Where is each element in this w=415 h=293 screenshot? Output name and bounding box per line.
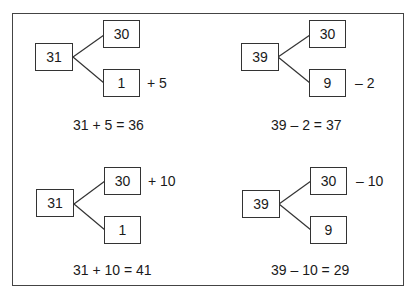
- ones-part: 1: [118, 75, 126, 91]
- ones-part-box: 1: [104, 216, 141, 244]
- whole-number: 31: [47, 195, 63, 211]
- ones-part-box: 1: [103, 69, 140, 97]
- operation-label: – 10: [356, 173, 383, 189]
- ones-part-box: 9: [310, 216, 347, 244]
- equation-text: 39 – 2 = 37: [271, 117, 415, 133]
- equation-text: 39 – 10 = 29: [271, 262, 415, 278]
- partition-panel-2: 39 30 9 – 2 39 – 2 = 37: [205, 0, 395, 130]
- operation-label: + 5: [147, 75, 167, 91]
- ones-part-box: 9: [309, 69, 346, 97]
- operation-label: + 10: [148, 173, 176, 189]
- branch-lines: [0, 0, 190, 130]
- whole-number: 39: [253, 196, 269, 212]
- whole-number-box: 31: [35, 43, 73, 71]
- tens-part: 30: [320, 26, 336, 42]
- partition-panel-4: 39 30 9 – 10 39 – 10 = 29: [205, 145, 395, 275]
- partition-panel-3: 31 30 1 + 10 31 + 10 = 41: [0, 145, 190, 275]
- whole-number: 39: [252, 49, 268, 65]
- operation-label: – 2: [355, 75, 374, 91]
- tens-part-box: 30: [309, 20, 346, 48]
- whole-number-box: 39: [242, 190, 280, 218]
- tens-part-box: 30: [310, 167, 347, 195]
- tens-part: 30: [321, 173, 337, 189]
- ones-part: 9: [324, 75, 332, 91]
- partition-panel-1: 31 30 1 + 5 31 + 5 = 36: [0, 0, 190, 130]
- whole-number-box: 39: [241, 43, 279, 71]
- ones-part: 9: [325, 222, 333, 238]
- whole-number: 31: [46, 49, 62, 65]
- branch-lines: [0, 145, 190, 275]
- ones-part: 1: [119, 222, 127, 238]
- branch-lines: [205, 0, 395, 130]
- branch-lines: [205, 145, 395, 275]
- tens-part: 30: [115, 173, 131, 189]
- whole-number-box: 31: [36, 189, 74, 217]
- tens-part-box: 30: [103, 20, 140, 48]
- tens-part-box: 30: [104, 167, 141, 195]
- tens-part: 30: [114, 26, 130, 42]
